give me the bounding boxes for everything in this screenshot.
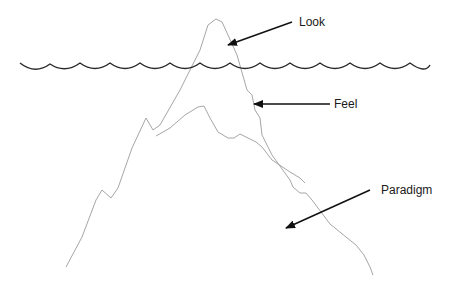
look-arrow: [228, 22, 292, 45]
look-label: Look: [299, 16, 325, 28]
iceberg-outer-outline: [66, 19, 373, 275]
paradigm-arrow: [286, 190, 370, 228]
feel-label: Feel: [334, 98, 357, 110]
feel-paradigm-boundary: [156, 106, 305, 183]
paradigm-label: Paradigm: [381, 184, 432, 196]
waterline: [20, 63, 430, 69]
iceberg-diagram: [0, 0, 454, 286]
